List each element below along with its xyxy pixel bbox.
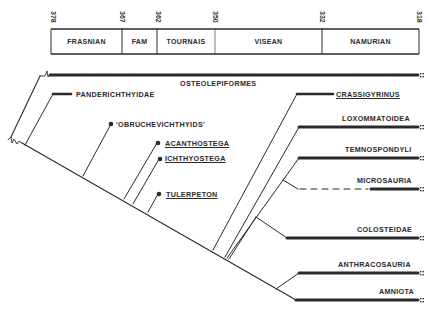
taxon-label-colosteidae: COLOSTEIDAE (357, 226, 412, 233)
taxon-label-obruchevichthyids: 'OBRUCHEVICHTHYIDS' (116, 121, 205, 128)
break-symbol-top (40, 71, 50, 77)
taxon-label-osteolepiformes: OSTEOLEPIFORMES (180, 80, 256, 87)
period-visean: VISEAN (215, 29, 322, 54)
time-tick-378: 378 (50, 11, 57, 23)
taxon-label-crassigyrinus: CRASSIGYRINUS (336, 91, 400, 98)
time-tick-332: 332 (319, 11, 326, 23)
taxon-label-microsauria: MICROSAURIA (357, 177, 412, 184)
period-namurian: NAMURIAN (322, 29, 419, 54)
period-tournaisian: TOURNAIS (157, 29, 215, 54)
taxon-label-tulerpeton: TULERPETON (166, 191, 218, 198)
taxon-label-temnospondyli: TEMNOSPONDYLI (345, 146, 412, 153)
taxon-label-anthracosauria: ANTHRACOSAURIA (338, 261, 411, 268)
time-tick-350: 350 (212, 11, 219, 23)
taxon-label-acanthostega: ACANTHOSTEGA (165, 140, 229, 147)
continuation-marks (420, 73, 424, 302)
break-symbol-bottom (8, 137, 22, 144)
taxon-label-panderichthyidae: PANDERICHTHYIDAE (76, 91, 155, 98)
period-famennian: FAM (122, 29, 157, 54)
period-frasnian: FRASNIAN (51, 29, 122, 54)
taxon-label-loxommatoidea: LOXOMMATOIDEA (342, 115, 410, 122)
taxon-label-amniota: AMNIOTA (379, 288, 414, 295)
time-tick-362: 362 (155, 11, 162, 23)
time-tick-318: 318 (416, 11, 423, 23)
taxon-label-ichthyostega: ICHTHYOSTEGA (165, 155, 226, 162)
cladogram-figure: 378 367 362 350 332 318 FRASNIAN FAM TOU… (0, 0, 430, 314)
time-tick-367: 367 (119, 11, 126, 23)
